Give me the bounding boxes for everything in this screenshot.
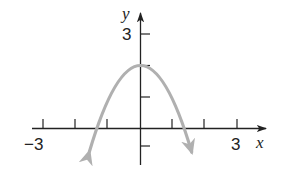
y-tick-label-3: 3 — [122, 26, 131, 43]
x-axis-label: x — [256, 134, 264, 151]
y-ticks — [141, 34, 151, 146]
x-tick-label-3: 3 — [231, 136, 240, 153]
x-tick-label-neg3: −3 — [24, 136, 43, 153]
y-axis-label: y — [122, 5, 130, 22]
